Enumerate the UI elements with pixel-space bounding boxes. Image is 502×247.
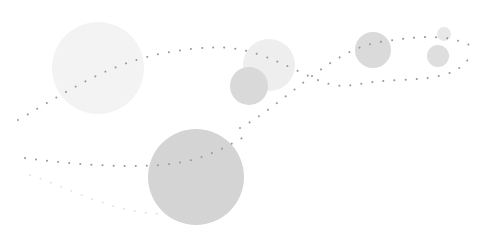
small-circle-top-right <box>437 27 451 41</box>
decorative-illustration <box>0 0 502 247</box>
mid-circle-center <box>230 67 268 105</box>
circles-and-dotted-curves-graphic <box>0 0 502 247</box>
large-pale-circle <box>52 22 144 114</box>
dotted-curve-faint <box>30 175 160 214</box>
small-circle-right <box>427 45 449 67</box>
mid-circle-right <box>355 32 391 68</box>
large-dark-circle <box>148 129 244 225</box>
